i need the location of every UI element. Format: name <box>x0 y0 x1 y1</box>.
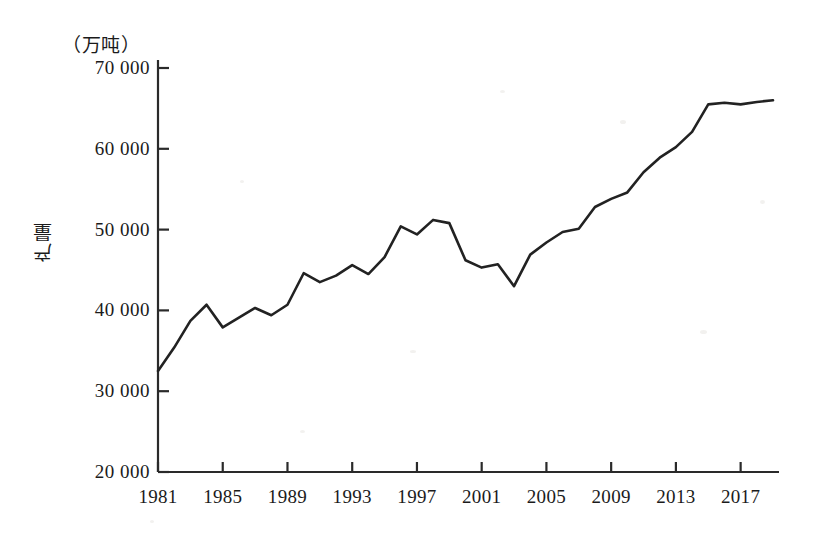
paper-speck <box>500 90 505 93</box>
chart-axes <box>158 60 779 472</box>
paper-speck <box>700 330 707 334</box>
paper-speck <box>300 430 305 433</box>
data-series-line <box>158 100 773 371</box>
paper-speck <box>240 180 244 183</box>
x-axis-ticks <box>158 462 741 472</box>
line-plot-canvas <box>0 0 813 543</box>
paper-speck <box>620 120 626 124</box>
paper-speck <box>410 350 416 353</box>
y-axis-ticks <box>158 68 169 472</box>
paper-speck <box>760 200 765 204</box>
paper-speck <box>150 520 154 523</box>
chart-figure: （万吨） 产量 20 00030 00040 00050 00060 00070… <box>0 0 813 543</box>
